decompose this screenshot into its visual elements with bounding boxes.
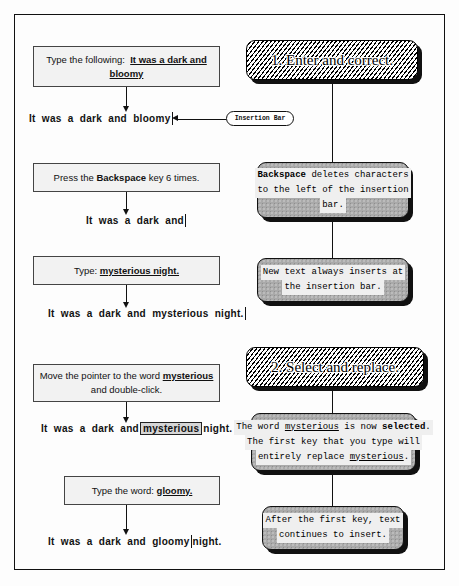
result-text: It was a dark and [86,215,184,226]
result-text-3: It was a dark and mysterious night. [48,307,247,320]
note-line: the insertion bar. [282,280,383,295]
instruction-line: Type the word: gloomy. [92,484,193,498]
instruction-box-type-mysterious: Type: mysterious night. [33,256,220,285]
result-text: night. [203,423,232,434]
instruction-box-double-click: Move the pointer to the word mysterious … [33,364,220,402]
connector-line [126,505,127,532]
instruction-box-type-following: Type the following: It was a dark and bl… [33,46,220,87]
callout-line [178,119,226,120]
note-line: entirely replace mysterious. [256,450,411,465]
instruction-line: Press the Backspace key 6 times. [54,171,200,185]
diagram-canvas: Type the following: It was a dark and bl… [0,0,459,586]
section-header-label: 1. Enter and correct. [269,52,395,69]
note-line: bar. [320,198,346,213]
selected-word: mysterious [140,422,202,435]
section-header-2: 2. Select and replace. [246,347,424,387]
note-line: Backspace deletes characters [255,168,410,183]
insertion-bar-callout: Insertion Bar [226,111,294,126]
instruction-line: Move the pointer to the word mysterious [40,369,214,383]
result-text-5: It was a dark and gloomynight. [48,535,222,548]
note-continues: After the first key, text continues to i… [262,506,404,550]
result-text: It was a dark and mysterious night. [48,308,244,319]
note-line: continues to insert. [277,528,389,543]
note-line: to the left of the insertion [255,183,410,198]
note-line: After the first key, text [263,513,402,528]
result-text: It was a dark and [41,423,139,434]
insertion-caret [191,535,192,548]
result-text: night. [193,536,222,547]
result-text-2: It was a dark and [86,214,187,227]
instruction-line: bloomy [110,67,144,81]
note-line: The word mysterious is now selected. [234,420,432,435]
instruction-line: Type: mysterious night. [74,264,179,278]
note-backspace: Backspace deletes characters to the left… [257,162,409,218]
instruction-box-type-gloomy: Type the word: gloomy. [64,476,220,505]
insertion-caret [185,214,186,227]
result-text: It was a dark and bloomy [29,113,171,124]
note-new-text: New text always inserts at the insertion… [257,258,409,302]
result-text: It was a dark and gloomy [48,536,190,547]
instruction-box-backspace: Press the Backspace key 6 times. [33,163,220,192]
section-header-1: 1. Enter and correct. [246,40,418,80]
result-text-4: It was a dark andmysteriousnight. [41,422,232,435]
insertion-caret [245,307,246,320]
insertion-bar-label: Insertion Bar [235,115,286,122]
connector-line [332,84,333,162]
connector-line [332,391,333,413]
instruction-line: Type the following: It was a dark and [46,53,207,67]
connector-line [332,475,333,506]
result-text-1: It was a dark and bloomy [29,112,174,125]
note-line: The first key that you type will [245,435,422,450]
instruction-line: and double-click. [91,383,162,397]
section-header-label: 2. Select and replace. [269,359,401,376]
note-line: New text always inserts at [261,265,405,280]
connector-line [332,222,333,258]
note-selected: The word mysterious is now selected. The… [251,413,416,471]
